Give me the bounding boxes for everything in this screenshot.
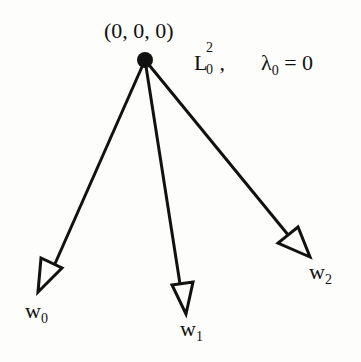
diagram-canvas: (0, 0, 0) L20, λ0 = 0 w0 w1 w2 [0, 0, 361, 362]
arrow-w0 [38, 60, 145, 292]
w0-label: w0 [25, 298, 48, 327]
eigenvalue-label: λ0 = 0 [261, 50, 313, 79]
space-label: L20, [194, 50, 225, 76]
root-coordinates-label: (0, 0, 0) [104, 18, 174, 44]
w1-label: w1 [180, 316, 203, 345]
arrow-w1 [145, 60, 193, 314]
w2-label: w2 [309, 259, 332, 288]
